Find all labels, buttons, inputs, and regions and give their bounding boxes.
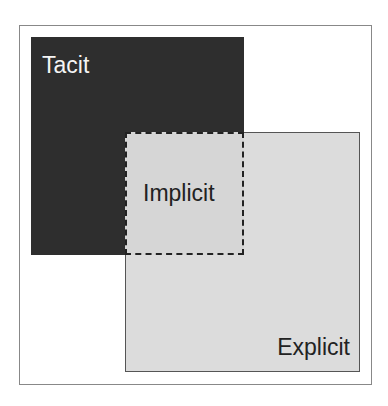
tacit-label: Tacit: [42, 52, 89, 79]
implicit-label: Implicit: [143, 180, 215, 207]
implicit-region: Implicit: [125, 132, 244, 255]
explicit-label: Explicit: [277, 334, 350, 361]
